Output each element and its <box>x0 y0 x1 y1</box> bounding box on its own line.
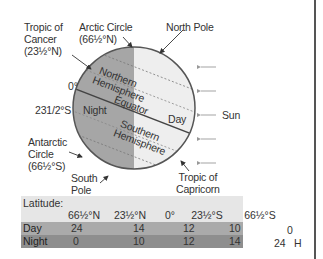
south-pole-pointer <box>100 176 108 183</box>
tropic-cancer-pointer <box>72 55 91 69</box>
night-row-bg <box>21 235 243 248</box>
north-pole-pointer <box>160 30 183 53</box>
unit-suffix: H <box>294 237 302 250</box>
tropic-of-capricorn-label: Tropic of Capricorn <box>176 171 220 195</box>
antarctic-circle-label: Antarctic Circle (66½°S) <box>28 136 67 172</box>
south-pole-label: South Pole <box>71 172 97 196</box>
cell-value: 10 <box>133 235 145 248</box>
latitude-title: Latitude: <box>23 197 63 210</box>
sun-label: Sun <box>222 109 240 121</box>
cell-value: 14 <box>133 222 145 235</box>
tropic-of-cancer-label: Tropic of Cancer (23½°N) <box>24 21 63 57</box>
latitude-23-south-label: 231/2°S <box>35 104 71 116</box>
tropic-capricorn-pointer <box>181 161 189 171</box>
column-header: 66½°N <box>66 209 102 222</box>
column-header: 23½°N <box>112 209 148 222</box>
row-label: Night <box>23 235 48 248</box>
cell-value: 12 <box>183 235 195 248</box>
night-label: Night <box>83 104 107 116</box>
cell-value: 24 <box>274 237 286 250</box>
sun-ray-arrows <box>201 67 216 163</box>
antarctic-circle-pointer <box>69 152 82 157</box>
arctic-circle-label: Arctic Circle (66½°N) <box>79 21 132 45</box>
row-label: Day <box>23 222 42 235</box>
column-header: 23½°S <box>189 209 225 222</box>
column-header: 0° <box>160 209 180 222</box>
cell-value: 10 <box>229 222 241 235</box>
day-label: Day <box>168 113 186 125</box>
cell-value: 12 <box>183 222 195 235</box>
cell-value: 24 <box>71 222 83 235</box>
column-header: 66½°S <box>242 209 278 222</box>
cell-value: 0 <box>287 224 293 237</box>
day-row-bg <box>21 222 243 235</box>
zero-degree-label: 0° <box>68 80 78 92</box>
cell-value: 14 <box>229 235 241 248</box>
north-pole-label: North Pole <box>166 21 214 33</box>
cell-value: 0 <box>73 235 79 248</box>
